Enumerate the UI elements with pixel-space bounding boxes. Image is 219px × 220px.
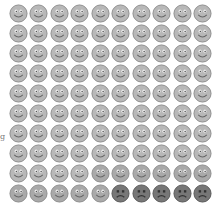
happy-face-icon	[49, 3, 70, 23]
happy-face-icon	[111, 123, 132, 143]
happy-face-icon	[8, 163, 29, 183]
side-label: g	[0, 132, 5, 141]
happy-face-icon	[29, 23, 50, 43]
happy-face-icon	[49, 63, 70, 83]
happy-face-icon	[131, 123, 152, 143]
happy-face-icon	[152, 83, 173, 103]
happy-face-icon	[172, 123, 193, 143]
happy-face-icon	[172, 43, 193, 63]
happy-face-icon	[49, 43, 70, 63]
happy-face-icon	[172, 3, 193, 23]
neutral-face-icon	[193, 163, 214, 183]
happy-face-icon	[131, 3, 152, 23]
happy-face-icon	[90, 3, 111, 23]
happy-face-icon	[70, 3, 91, 23]
happy-face-icon	[131, 143, 152, 163]
happy-face-icon	[29, 103, 50, 123]
happy-face-icon	[111, 43, 132, 63]
happy-face-icon	[90, 103, 111, 123]
happy-face-icon	[90, 83, 111, 103]
happy-face-icon	[111, 143, 132, 163]
neutral-face-icon	[152, 163, 173, 183]
happy-face-icon	[193, 23, 214, 43]
happy-face-icon	[70, 143, 91, 163]
happy-face-icon	[111, 63, 132, 83]
happy-face-icon	[152, 43, 173, 63]
pictograph-grid	[8, 3, 213, 203]
happy-face-icon	[8, 143, 29, 163]
happy-face-icon	[70, 63, 91, 83]
happy-face-icon	[152, 123, 173, 143]
happy-face-icon	[172, 23, 193, 43]
happy-face-icon	[172, 103, 193, 123]
happy-face-icon	[172, 63, 193, 83]
neutral-face-icon	[49, 183, 70, 203]
happy-face-icon	[193, 43, 214, 63]
happy-face-icon	[29, 43, 50, 63]
happy-face-icon	[131, 103, 152, 123]
happy-face-icon	[152, 143, 173, 163]
happy-face-icon	[8, 103, 29, 123]
happy-face-icon	[8, 123, 29, 143]
neutral-face-icon	[131, 163, 152, 183]
happy-face-icon	[29, 83, 50, 103]
happy-face-icon	[70, 123, 91, 143]
happy-face-icon	[131, 23, 152, 43]
happy-face-icon	[29, 63, 50, 83]
happy-face-icon	[70, 43, 91, 63]
happy-face-icon	[49, 163, 70, 183]
happy-face-icon	[70, 163, 91, 183]
happy-face-icon	[70, 23, 91, 43]
happy-face-icon	[193, 83, 214, 103]
neutral-face-icon	[111, 163, 132, 183]
happy-face-icon	[90, 143, 111, 163]
happy-face-icon	[8, 23, 29, 43]
happy-face-icon	[29, 143, 50, 163]
happy-face-icon	[111, 3, 132, 23]
happy-face-icon	[111, 103, 132, 123]
happy-face-icon	[111, 23, 132, 43]
happy-face-icon	[152, 3, 173, 23]
happy-face-icon	[152, 23, 173, 43]
sad-face-icon	[172, 183, 193, 203]
happy-face-icon	[29, 3, 50, 23]
happy-face-icon	[172, 143, 193, 163]
happy-face-icon	[8, 83, 29, 103]
neutral-face-icon	[29, 183, 50, 203]
happy-face-icon	[193, 63, 214, 83]
neutral-face-icon	[90, 183, 111, 203]
happy-face-icon	[70, 83, 91, 103]
happy-face-icon	[193, 143, 214, 163]
happy-face-icon	[152, 103, 173, 123]
sad-face-icon	[111, 183, 132, 203]
sad-face-icon	[193, 183, 214, 203]
happy-face-icon	[131, 43, 152, 63]
happy-face-icon	[152, 63, 173, 83]
happy-face-icon	[29, 123, 50, 143]
happy-face-icon	[111, 83, 132, 103]
happy-face-icon	[8, 43, 29, 63]
happy-face-icon	[90, 123, 111, 143]
happy-face-icon	[193, 123, 214, 143]
neutral-face-icon	[70, 183, 91, 203]
happy-face-icon	[49, 143, 70, 163]
sad-face-icon	[152, 183, 173, 203]
happy-face-icon	[8, 3, 29, 23]
happy-face-icon	[193, 103, 214, 123]
happy-face-icon	[70, 103, 91, 123]
happy-face-icon	[131, 63, 152, 83]
happy-face-icon	[29, 163, 50, 183]
happy-face-icon	[131, 83, 152, 103]
happy-face-icon	[90, 23, 111, 43]
happy-face-icon	[172, 83, 193, 103]
neutral-face-icon	[172, 163, 193, 183]
happy-face-icon	[49, 23, 70, 43]
neutral-face-icon	[90, 163, 111, 183]
happy-face-icon	[49, 123, 70, 143]
neutral-face-icon	[8, 183, 29, 203]
happy-face-icon	[90, 63, 111, 83]
sad-face-icon	[131, 183, 152, 203]
happy-face-icon	[49, 103, 70, 123]
happy-face-icon	[8, 63, 29, 83]
happy-face-icon	[193, 3, 214, 23]
